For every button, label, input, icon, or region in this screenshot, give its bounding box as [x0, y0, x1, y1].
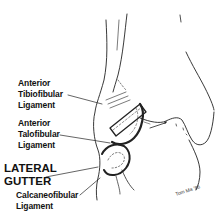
- label-line: Ligament: [18, 100, 63, 111]
- leader-anterior-tibiofibular: [68, 95, 102, 104]
- label-line: Tibiofibular: [18, 89, 63, 100]
- anterior-talofibular-ligament: [110, 104, 146, 136]
- label-line: Anterior: [18, 78, 63, 89]
- label-lateral-gutter: LATERAL GUTTER: [4, 162, 57, 188]
- label-anterior-tibiofibular-ligament: Anterior Tibiofibular Ligament: [18, 78, 63, 111]
- label-line: Ligament: [16, 201, 78, 212]
- calcaneofibular-ligament: [102, 144, 130, 175]
- ankle-illustration: Tom Ma '86: [0, 0, 222, 222]
- leader-calcaneofibular: [80, 178, 100, 195]
- tibia-outline: [113, 14, 127, 92]
- leg-posterior-outline: [180, 15, 181, 22]
- artist-signature: Tom Ma '86: [174, 183, 200, 197]
- label-line: GUTTER: [4, 175, 57, 188]
- label-anterior-talofibular-ligament: Anterior Talofibular Ligament: [18, 118, 60, 151]
- anterior-tibiofibular-ligament: [106, 92, 130, 108]
- foot-outline: [140, 112, 214, 145]
- label-line: Ligament: [18, 140, 60, 151]
- label-line: Anterior: [18, 118, 60, 129]
- label-line: Talofibular: [18, 129, 60, 140]
- leader-anterior-talofibular: [60, 135, 110, 143]
- label-calcaneofibular-ligament: Calcaneofibular Ligament: [16, 190, 78, 212]
- label-line: Calcaneofibular: [16, 190, 78, 201]
- label-line: LATERAL: [4, 162, 57, 175]
